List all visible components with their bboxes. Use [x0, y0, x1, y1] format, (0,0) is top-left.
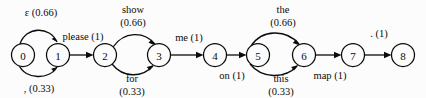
- arrow-head-icon: [86, 52, 94, 59]
- edge-2-3-show: [113, 35, 156, 47]
- edge-label-5-6-this-line1: this: [273, 73, 288, 84]
- state-label: 8: [400, 50, 406, 62]
- wfst-diagram-container: 0 1 2 3 4 5: [0, 0, 426, 98]
- arrow-head-icon: [384, 52, 392, 59]
- edge-3-4-me: [171, 52, 204, 59]
- edge-label-3-4-me: me (1): [175, 32, 203, 44]
- state-node-3[interactable]: 3: [148, 44, 171, 67]
- state-node-5[interactable]: 5: [247, 44, 270, 67]
- state-node-6[interactable]: 6: [293, 44, 316, 67]
- state-label: 5: [255, 50, 261, 62]
- edge-label-2-3-for-line1: for: [126, 73, 139, 84]
- edge-label-0-1-comma: , (0.33): [24, 83, 55, 95]
- edge-label-5-6-the-line2: (0.66): [270, 17, 296, 29]
- edge-label-2-3-show-line1: show: [122, 4, 145, 15]
- edge-label-7-8-period: . (1): [370, 28, 388, 40]
- state-label: 3: [156, 50, 162, 62]
- state-label: 6: [301, 50, 307, 62]
- edge-label-2-3-show-line2: (0.66): [120, 17, 146, 29]
- state-node-2[interactable]: 2: [94, 44, 117, 67]
- state-label: 1: [55, 50, 61, 62]
- edge-label-4-5-on: on (1): [219, 70, 245, 82]
- arrow-head-icon: [334, 52, 342, 59]
- edge-path: [113, 35, 155, 47]
- edge-label-1-2-please: please (1): [62, 31, 104, 43]
- edge-7-8-period: [365, 52, 392, 59]
- edge-label-5-6-this-line2: (0.33): [268, 86, 294, 98]
- edge-0-1-epsilon: [20, 30, 57, 44]
- state-label: 7: [350, 50, 356, 62]
- edge-label-0-1-epsilon: ε (0.66): [25, 7, 58, 19]
- state-node-1[interactable]: 1: [47, 44, 70, 67]
- arrow-head-icon: [196, 52, 204, 59]
- state-label: 2: [102, 50, 108, 62]
- state-node-0[interactable]: 0: [12, 44, 35, 67]
- edge-path: [20, 30, 57, 44]
- arrow-head-icon: [239, 52, 247, 59]
- state-node-4[interactable]: 4: [204, 44, 227, 67]
- state-label: 0: [20, 50, 26, 62]
- state-node-7[interactable]: 7: [342, 44, 365, 67]
- edge-1-2-please: [70, 52, 94, 59]
- state-node-8[interactable]: 8: [392, 44, 415, 67]
- edge-4-5-on: [227, 52, 247, 59]
- state-label: 4: [212, 50, 218, 62]
- wfst-graph: 0 1 2 3 4 5: [0, 0, 426, 98]
- edge-label-6-7-map: map (1): [314, 70, 347, 82]
- edge-6-7-map: [316, 52, 342, 59]
- edge-label-5-6-the-line1: the: [277, 4, 290, 15]
- edge-label-2-3-for-line2: (0.33): [119, 86, 145, 98]
